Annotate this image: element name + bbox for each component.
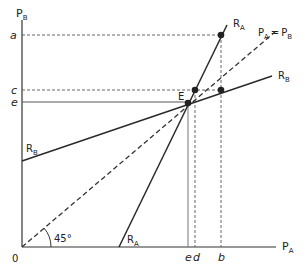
- y-tick-e: e: [11, 96, 18, 109]
- x-tick-e: e: [185, 251, 192, 264]
- point-c-b: [218, 87, 225, 94]
- angle-arc: [44, 228, 51, 247]
- label-ra-bottom: RA: [127, 234, 139, 248]
- label-rb-right: RB: [278, 70, 290, 84]
- point-e: [185, 100, 192, 107]
- y-axis-label: PB: [16, 7, 28, 22]
- label-diagonal: PA=PB: [258, 27, 292, 41]
- y-tick-a: a: [10, 29, 17, 42]
- label-rb-left: RB: [26, 143, 38, 157]
- equilibrium-label: E: [178, 91, 184, 102]
- point-c-d: [192, 87, 199, 94]
- x-tick-b: b: [218, 251, 225, 264]
- x-axis-label: PA: [282, 240, 294, 255]
- origin-label: 0: [12, 253, 18, 264]
- point-a-b: [218, 32, 225, 39]
- reaction-line-ra: [119, 25, 227, 247]
- reaction-line-rb: [22, 76, 272, 161]
- label-ra-top: RA: [233, 18, 245, 32]
- reaction-function-diagram: PB PA 0 a c e e d b RA RA RB RB PA=PB E …: [0, 0, 305, 273]
- x-tick-d: d: [193, 251, 201, 264]
- diagonal-line: [22, 32, 275, 247]
- angle-label: 45°: [54, 233, 72, 244]
